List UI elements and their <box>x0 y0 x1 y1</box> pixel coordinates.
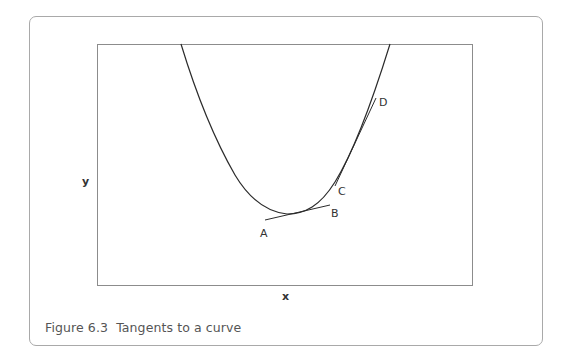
curve <box>181 44 390 214</box>
point-label-c: C <box>338 185 346 198</box>
tangent-cd <box>335 98 376 186</box>
plot-frame <box>98 45 473 286</box>
point-label-d: D <box>379 96 387 109</box>
point-label-a: A <box>260 227 268 240</box>
x-axis-label: x <box>282 290 289 303</box>
y-axis-label: y <box>82 175 89 188</box>
tangent-ab <box>265 205 330 220</box>
figure-caption: Figure 6.3 Tangents to a curve <box>45 320 241 335</box>
tangent-diagram: A B C D y x <box>0 0 568 363</box>
point-label-b: B <box>331 207 339 220</box>
